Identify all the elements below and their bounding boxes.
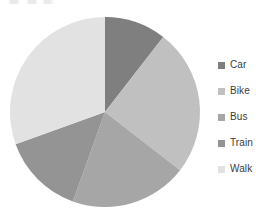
legend-swatch-bus [218,114,225,121]
legend-label-bus: Bus [230,104,248,130]
legend-swatch-train [218,140,225,147]
legend-item-walk[interactable]: Walk [218,156,268,182]
legend-swatch-walk [218,166,225,173]
legend-label-car: Car [230,52,246,78]
legend-item-bike[interactable]: Bike [218,78,268,104]
legend-item-train[interactable]: Train [218,130,268,156]
legend-swatch-car [218,62,225,69]
legend-swatch-bike [218,88,225,95]
legend-label-bike: Bike [230,78,250,104]
legend-item-bus[interactable]: Bus [218,104,268,130]
pie-chart-figure: Car Bike Bus Train Walk [0,0,269,215]
legend-item-car[interactable]: Car [218,52,268,78]
pie-slice-group [10,17,200,207]
legend-label-walk: Walk [230,156,252,182]
chart-legend: Car Bike Bus Train Walk [218,52,268,182]
legend-label-train: Train [230,130,253,156]
